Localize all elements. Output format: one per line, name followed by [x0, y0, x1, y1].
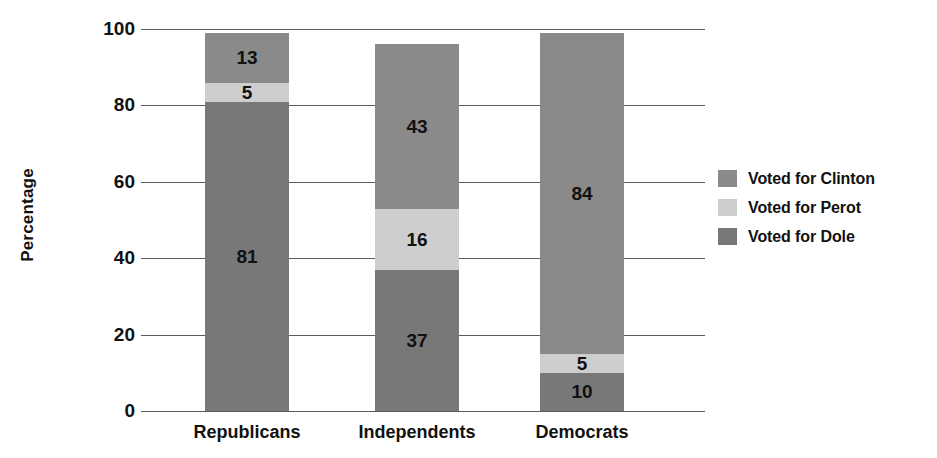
bar-value-democrats-clinton: 84	[571, 184, 592, 203]
bar-segment-democrats-perot[interactable]: 5	[540, 354, 624, 373]
bar-segment-democrats-clinton[interactable]: 84	[540, 33, 624, 354]
legend: Voted for Clinton Voted for Perot Voted …	[718, 164, 875, 251]
bar-value-republicans-dole: 81	[236, 247, 257, 266]
bar-stack-independents: 37 16 43	[375, 29, 459, 411]
bar-value-independents-clinton: 43	[406, 117, 427, 136]
y-axis-title-text: Percentage	[18, 168, 38, 262]
bar-value-independents-dole: 37	[406, 331, 427, 350]
bar-segment-independents-perot[interactable]: 16	[375, 209, 459, 270]
x-tick-label-republicans: Republicans	[152, 422, 342, 443]
bar-segment-republicans-clinton[interactable]: 13	[205, 33, 289, 83]
legend-item-dole[interactable]: Voted for Dole	[718, 222, 875, 251]
bar-group-democrats: 10 5 84 Democrats	[540, 29, 624, 411]
y-axis-title: Percentage	[8, 0, 48, 430]
bar-stack-republicans: 81 5 13	[205, 29, 289, 411]
legend-label-perot: Voted for Perot	[748, 199, 861, 217]
y-tick-label-60: 60	[114, 171, 135, 193]
y-tick-label-40: 40	[114, 247, 135, 269]
bar-group-independents: 37 16 43 Independents	[375, 29, 459, 411]
plot-area: 0 20 40 60 80 100 81	[148, 29, 705, 411]
tick-mark-100	[141, 29, 148, 30]
tick-mark-20	[141, 335, 148, 336]
legend-item-perot[interactable]: Voted for Perot	[718, 193, 875, 222]
legend-item-clinton[interactable]: Voted for Clinton	[718, 164, 875, 193]
bar-stack-democrats: 10 5 84	[540, 29, 624, 411]
bar-value-independents-perot: 16	[406, 230, 427, 249]
bar-segment-democrats-dole[interactable]: 10	[540, 373, 624, 411]
legend-label-dole: Voted for Dole	[748, 228, 855, 246]
gridline-0: 0	[148, 411, 705, 412]
tick-mark-60	[141, 182, 148, 183]
legend-swatch-dole-icon	[718, 228, 737, 245]
bar-segment-republicans-perot[interactable]: 5	[205, 83, 289, 102]
bar-segment-republicans-dole[interactable]: 81	[205, 102, 289, 411]
y-tick-label-80: 80	[114, 94, 135, 116]
legend-swatch-perot-icon	[718, 199, 737, 216]
stacked-bar-chart: Percentage 0 20 40 60 80 100	[0, 0, 937, 458]
legend-swatch-clinton-icon	[718, 170, 737, 187]
tick-mark-80	[141, 105, 148, 106]
y-tick-label-0: 0	[124, 400, 135, 422]
bar-segment-independents-dole[interactable]: 37	[375, 270, 459, 411]
legend-label-clinton: Voted for Clinton	[748, 170, 875, 188]
x-tick-label-independents: Independents	[322, 422, 512, 443]
bar-value-democrats-perot: 5	[577, 354, 588, 373]
y-tick-label-100: 100	[103, 18, 135, 40]
x-tick-label-democrats: Democrats	[487, 422, 677, 443]
tick-mark-0	[141, 411, 148, 412]
bar-value-democrats-dole: 10	[571, 382, 592, 401]
y-tick-label-20: 20	[114, 324, 135, 346]
bar-group-republicans: 81 5 13 Republicans	[205, 29, 289, 411]
bar-value-republicans-perot: 5	[242, 83, 253, 102]
bar-value-republicans-clinton: 13	[236, 48, 257, 67]
bar-segment-independents-clinton[interactable]: 43	[375, 44, 459, 208]
tick-mark-40	[141, 258, 148, 259]
